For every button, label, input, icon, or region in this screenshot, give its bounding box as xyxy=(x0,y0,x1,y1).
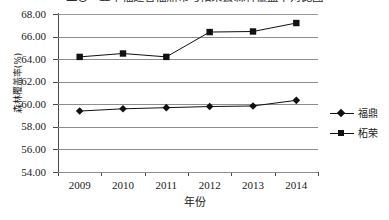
y-tick-label: 68.00 xyxy=(0,9,46,20)
y-tick-label: 56.00 xyxy=(0,144,46,155)
legend-item-label: 柘荣 xyxy=(354,128,378,140)
y-tick-label: 60.00 xyxy=(0,99,46,110)
series-line xyxy=(80,100,297,111)
diamond-marker-icon xyxy=(293,97,301,105)
y-tick-label: 64.00 xyxy=(0,54,46,65)
diamond-marker-icon xyxy=(163,104,171,112)
diamond-marker-icon xyxy=(249,102,257,110)
chart-legend: 福鼎 柘荣 xyxy=(330,104,389,144)
square-marker-icon xyxy=(76,54,82,60)
chart-figure: 二〇一五年福建省福鼎市与柘荣县森林覆盖率对比图 68.0066.0064.006… xyxy=(0,0,389,220)
x-tick-label: 2009 xyxy=(57,179,103,191)
diamond-marker-icon xyxy=(76,107,84,115)
y-axis-title: 森林覆盖率(%) xyxy=(13,23,23,143)
x-tick-label: 2011 xyxy=(143,179,189,191)
x-tick-label: 2010 xyxy=(100,179,146,191)
x-tick-mark xyxy=(318,172,319,176)
square-marker-icon xyxy=(293,20,299,26)
square-marker-icon xyxy=(120,50,126,56)
clipped-caption-text: 二〇一五年福建省福鼎市与柘荣县森林覆盖率对比图 xyxy=(0,0,389,4)
y-tick-label: 58.00 xyxy=(0,121,46,132)
plot-area xyxy=(58,14,318,172)
x-tick-label: 2012 xyxy=(187,179,233,191)
y-tick-label: 62.00 xyxy=(0,76,46,87)
x-axis-title: 年份 xyxy=(0,196,389,209)
square-marker-icon xyxy=(206,29,212,35)
square-marker-icon xyxy=(163,54,169,60)
data-series-layer xyxy=(58,14,318,172)
series-1 xyxy=(76,97,300,115)
gridline xyxy=(58,172,318,173)
diamond-marker-icon xyxy=(119,105,127,113)
legend-item-label: 福鼎 xyxy=(354,108,378,120)
legend-item-series-1[interactable]: 福鼎 xyxy=(330,104,389,124)
legend-item-series-2[interactable]: 柘荣 xyxy=(330,124,389,144)
series-line xyxy=(80,23,297,57)
legend-diamond-marker-icon xyxy=(330,108,354,120)
diamond-marker-icon xyxy=(206,103,214,111)
square-marker-icon xyxy=(250,28,256,34)
x-tick-label: 2013 xyxy=(230,179,276,191)
x-tick-label: 2014 xyxy=(273,179,319,191)
series-2 xyxy=(76,20,299,60)
y-tick-label: 54.00 xyxy=(0,167,46,178)
legend-square-marker-icon xyxy=(330,128,354,140)
y-tick-label: 66.00 xyxy=(0,31,46,42)
